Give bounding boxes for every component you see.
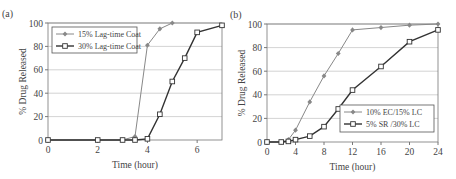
panel-label: (b) xyxy=(230,9,242,21)
marker-square xyxy=(220,23,225,28)
marker-square xyxy=(95,138,100,143)
y-tick-label: 40 xyxy=(34,89,44,99)
marker-square xyxy=(133,138,138,143)
panel-label: (a) xyxy=(2,8,13,20)
x-tick-label: 20 xyxy=(405,147,415,157)
marker-square xyxy=(265,140,270,145)
marker-square xyxy=(350,88,355,93)
legend-label: 10% EC/15% LC xyxy=(366,108,422,117)
y-axis-label: % Drug Released xyxy=(18,48,28,115)
x-axis-label: Time (hour) xyxy=(112,160,158,171)
marker-square xyxy=(46,138,51,143)
figure: 0204060801000246Time (hour)% Drug Releas… xyxy=(0,0,456,179)
y-axis-label: % Drug Released xyxy=(237,50,247,117)
x-tick-label: 6 xyxy=(195,145,200,155)
x-tick-label: 0 xyxy=(265,147,270,157)
x-axis-label: Time (hour) xyxy=(330,162,376,173)
marker-square xyxy=(158,112,163,117)
marker-square xyxy=(379,64,384,69)
marker-square xyxy=(279,140,284,145)
chart-panel-a: 0204060801000246Time (hour)% Drug Releas… xyxy=(2,8,224,171)
marker-diamond xyxy=(436,21,441,26)
marker-square xyxy=(145,137,150,142)
legend: 15% Lag-time Coat30% Lag-time Coat xyxy=(52,27,142,53)
x-tick-label: 12 xyxy=(348,147,358,157)
y-tick-label: 100 xyxy=(29,19,44,29)
x-tick-label: 4 xyxy=(145,145,150,155)
marker-square xyxy=(286,139,291,144)
marker-square xyxy=(293,137,298,142)
figure-canvas: 0204060801000246Time (hour)% Drug Releas… xyxy=(0,0,456,179)
legend-label: 15% Lag-time Coat xyxy=(78,30,142,39)
y-tick-label: 80 xyxy=(34,42,44,52)
marker-square xyxy=(307,134,312,139)
marker-diamond xyxy=(170,20,175,25)
y-tick-label: 60 xyxy=(253,67,263,77)
x-tick-label: 24 xyxy=(433,147,443,157)
marker-square xyxy=(351,122,356,127)
y-tick-label: 80 xyxy=(253,43,263,53)
x-tick-label: 4 xyxy=(293,147,298,157)
marker-diamond xyxy=(307,99,312,104)
x-tick-label: 2 xyxy=(95,145,100,155)
marker-square xyxy=(170,79,175,84)
y-tick-label: 0 xyxy=(257,138,262,148)
y-tick-label: 40 xyxy=(253,90,263,100)
marker-square xyxy=(436,28,441,33)
legend-label: 30% Lag-time Coat xyxy=(78,42,142,51)
y-tick-label: 0 xyxy=(38,136,43,146)
y-tick-label: 100 xyxy=(248,20,263,30)
y-tick-label: 60 xyxy=(34,65,44,75)
y-tick-label: 20 xyxy=(34,112,44,122)
x-tick-label: 0 xyxy=(46,145,51,155)
y-tick-label: 20 xyxy=(253,114,263,124)
marker-square xyxy=(182,56,187,61)
legend-label: 5% SR /30% LC xyxy=(366,120,420,129)
marker-square xyxy=(322,124,327,129)
marker-square xyxy=(120,138,125,143)
marker-diamond xyxy=(379,25,384,30)
chart-panel-b: 02040608010004812162024Time (hour)% Drug… xyxy=(230,9,443,173)
marker-square xyxy=(195,30,200,35)
marker-square xyxy=(63,44,68,49)
x-tick-label: 16 xyxy=(376,147,386,157)
marker-diamond xyxy=(407,23,412,28)
marker-square xyxy=(407,39,412,44)
x-tick-label: 8 xyxy=(322,147,327,157)
legend: 10% EC/15% LC5% SR /30% LC xyxy=(340,105,434,132)
